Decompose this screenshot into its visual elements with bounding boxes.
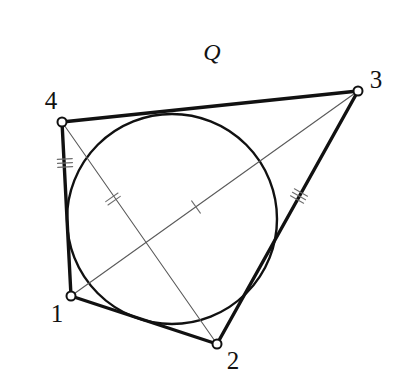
side-3-2 — [217, 91, 358, 344]
vertex-marker-2 — [213, 340, 222, 349]
tick-mark — [58, 163, 73, 164]
vertex-label-1: 1 — [51, 301, 64, 326]
sides-layer — [62, 91, 358, 344]
tick-group-side-3-2 — [291, 189, 308, 203]
tick-mark — [192, 201, 201, 213]
vertex-label-3: 3 — [370, 67, 383, 92]
vertex-marker-1 — [67, 292, 76, 301]
tick-marks-layer — [57, 159, 307, 213]
vertex-marker-3 — [354, 87, 363, 96]
vertex-label-2: 2 — [227, 348, 240, 373]
side-1-4 — [62, 122, 71, 296]
tick-group-diagonal-1-3 — [192, 201, 201, 213]
vertex-marker-4 — [58, 118, 67, 127]
shape-label-q: Q — [203, 40, 220, 64]
tick-mark — [58, 167, 73, 168]
vertex-label-4: 4 — [45, 88, 58, 113]
geometry-figure: Q 1234 — [0, 0, 398, 384]
vertex-markers-layer — [58, 87, 363, 349]
side-4-3 — [62, 91, 358, 122]
tick-mark — [57, 159, 72, 160]
side-2-1 — [71, 296, 217, 344]
diagonal-4-2 — [62, 122, 217, 344]
